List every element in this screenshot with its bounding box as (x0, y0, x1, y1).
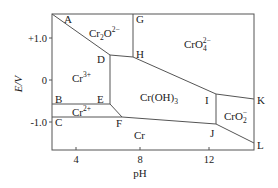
region-chromate: CrO42− (184, 36, 211, 53)
region-dichromate: Cr2O2− (89, 25, 120, 42)
region-metal: Cr (134, 129, 145, 141)
point-labels: A B C D E F G H I J K L (55, 13, 265, 151)
y-tick-label: -1.0 (30, 117, 47, 128)
point-label-i: I (205, 94, 209, 106)
point-label-j: J (210, 127, 215, 139)
point-label-e: E (97, 93, 104, 105)
point-label-f: F (116, 117, 122, 129)
region-chromite: CrO2− (224, 108, 247, 125)
point-label-k: K (257, 94, 265, 106)
point-label-c: C (55, 116, 62, 128)
x-tick-label: 12 (204, 154, 215, 165)
point-label-d: D (97, 53, 105, 65)
x-axis: 4 8 12 pH (73, 147, 214, 179)
point-label-a: A (64, 13, 72, 25)
region-labels: Cr2O2− CrO42− Cr3+ Cr2+ Cr(OH)3 CrO2− Cr (72, 25, 247, 141)
point-label-b: B (55, 93, 62, 105)
point-label-h: H (136, 48, 144, 60)
x-tick-label: 8 (137, 154, 142, 165)
y-axis: +1.0 0 -1.0 E/V (12, 33, 52, 128)
region-cr3: Cr3+ (72, 70, 91, 84)
y-tick-label: +1.0 (28, 33, 47, 44)
region-cr2: Cr2+ (72, 104, 91, 118)
x-axis-label: pH (133, 167, 147, 179)
point-label-g: G (136, 13, 144, 25)
region-hydroxide: Cr(OH)3 (140, 91, 178, 106)
pourbaix-diagram: +1.0 0 -1.0 E/V 4 8 12 pH (0, 0, 278, 188)
point-label-l: L (257, 139, 264, 151)
y-axis-label: E/V (12, 74, 24, 93)
x-tick-label: 4 (73, 154, 79, 165)
y-tick-label: 0 (42, 75, 47, 86)
